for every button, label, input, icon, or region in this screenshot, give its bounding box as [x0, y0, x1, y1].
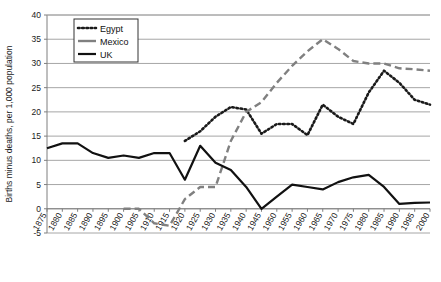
x-axis: 1875188018851890189519001905191019151920…: [31, 209, 432, 232]
x-axis-tick-label: 1945: [245, 211, 263, 233]
legend-label-mexico: Mexico: [100, 37, 129, 47]
series-egypt: [185, 71, 430, 141]
x-axis-tick-label: 1885: [61, 211, 79, 233]
x-axis-tick-label: 1890: [77, 211, 95, 233]
x-axis-tick-label: 1915: [153, 211, 171, 233]
x-axis-tick-label: 1960: [291, 211, 309, 233]
x-axis-tick-label: 1925: [184, 211, 202, 233]
x-axis-tick-label: 1900: [107, 211, 125, 233]
y-axis-tick-label: 15: [32, 131, 42, 141]
legend: EgyptMexicoUK: [74, 19, 138, 62]
y-axis-tick-label: 30: [32, 58, 42, 68]
series-line: [185, 71, 430, 141]
series-uk: [47, 143, 430, 208]
x-axis-tick-label: 1935: [214, 211, 232, 233]
x-axis-tick-label: 1980: [352, 211, 370, 233]
y-axis-tick-label: 10: [32, 155, 42, 165]
x-axis-tick-label: 1995: [398, 211, 416, 233]
line-chart: 4035302520151050-51875188018851890189519…: [0, 0, 441, 282]
x-axis-tick-label: 1965: [306, 211, 324, 233]
x-axis-tick-label: 1970: [322, 211, 340, 233]
legend-label-egypt: Egypt: [100, 24, 124, 34]
x-axis-tick-label: 1975: [337, 211, 355, 233]
x-axis-tick-label: 1905: [123, 211, 141, 233]
x-axis-tick-label: 1895: [92, 211, 110, 233]
y-axis-tick-label: 20: [32, 107, 42, 117]
chart-container: 4035302520151050-51875188018851890189519…: [0, 0, 441, 282]
y-axis-tick-label: 25: [32, 83, 42, 93]
series-line: [47, 143, 430, 208]
x-axis-tick-label: 1985: [368, 211, 386, 233]
y-axis-tick-label: 5: [36, 180, 41, 190]
y-axis-tick-label: 35: [32, 34, 42, 44]
x-axis-tick-label: 1955: [276, 211, 294, 233]
x-axis-tick-label: 1950: [260, 211, 278, 233]
x-axis-tick-label: 1880: [46, 211, 64, 233]
legend-label-uk: UK: [100, 50, 113, 60]
y-axis-title: Births minus deaths, per 1,000 populatio…: [4, 45, 14, 202]
x-axis-tick-label: 1990: [383, 211, 401, 233]
x-axis-tick-label: 2000: [414, 211, 432, 233]
x-axis-tick-label: 1875: [31, 211, 49, 233]
x-axis-tick-label: 1940: [230, 211, 248, 233]
x-axis-tick-label: 1930: [199, 211, 217, 233]
y-axis-tick-label: 40: [32, 10, 42, 20]
